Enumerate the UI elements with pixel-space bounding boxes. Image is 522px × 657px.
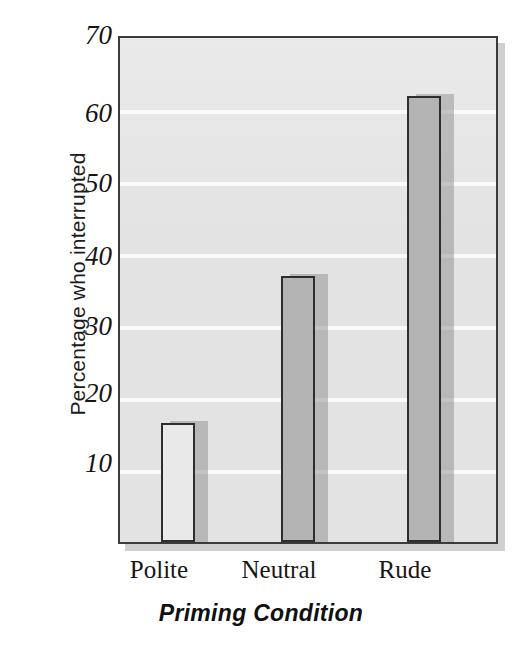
- y-tick-label-30: 30: [56, 313, 112, 340]
- y-tick-label-20: 20: [56, 380, 112, 407]
- bar-neutral[interactable]: [281, 276, 315, 542]
- bar-polite[interactable]: [161, 423, 195, 542]
- x-tick-label-neutral: Neutral: [219, 556, 339, 584]
- y-tick-label-60: 60: [56, 100, 112, 127]
- y-tick-label-70: 70: [56, 22, 112, 49]
- bar-rude[interactable]: [407, 96, 441, 542]
- bar-chart-figure: Percentage who interrupted 70 60 50 40 3…: [0, 0, 522, 657]
- x-tick-label-rude: Rude: [345, 556, 465, 584]
- y-tick-label-10: 10: [56, 450, 112, 477]
- plot-background: [120, 38, 496, 542]
- x-tick-label-polite: Polite: [99, 556, 219, 584]
- y-tick-label-50: 50: [56, 170, 112, 197]
- x-axis-title: Priming Condition: [0, 600, 522, 627]
- plot-area: [118, 36, 498, 544]
- y-tick-label-40: 40: [56, 243, 112, 270]
